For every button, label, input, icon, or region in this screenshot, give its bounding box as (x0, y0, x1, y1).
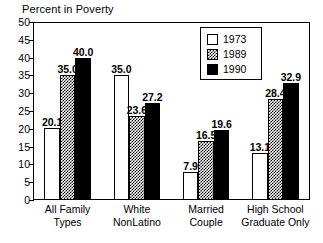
legend-item-1989: 1989 (207, 47, 261, 62)
legend: 1973 1989 1990 (200, 27, 262, 80)
bar-value-label: 27.2 (142, 92, 162, 103)
bar: 7.9 (183, 172, 199, 200)
y-tick-label: 45 (0, 35, 30, 45)
bar: 32.9 (283, 83, 299, 200)
y-tick-mark (29, 200, 34, 201)
legend-label-1973: 1973 (223, 34, 246, 45)
bar: 35.0 (60, 75, 76, 200)
bar: 13.1 (252, 153, 268, 200)
bar: 28.4 (268, 99, 284, 200)
y-tick-label: 20 (0, 124, 30, 134)
legend-item-1973: 1973 (207, 32, 261, 47)
x-group-label: MarriedCouple (172, 203, 241, 228)
bar-value-label: 32.9 (281, 72, 301, 83)
bar-value-label: 19.6 (211, 119, 231, 130)
legend-swatch-1989-icon (207, 49, 218, 60)
bar: 20.1 (44, 128, 60, 200)
bar-value-label: 7.9 (183, 161, 198, 172)
legend-swatch-1973-icon (207, 34, 218, 45)
y-tick-label: 15 (0, 142, 30, 152)
bars-layer: 20.135.040.035.023.627.27.916.519.613.12… (33, 22, 310, 200)
bar-value-label: 35.0 (111, 64, 131, 75)
legend-item-1990: 1990 (207, 62, 261, 77)
x-axis-labels: All FamilyTypesWhiteNonLatinoMarriedCoup… (33, 203, 310, 241)
x-group-label: WhiteNonLatino (102, 203, 171, 228)
y-tick-label: 0 (0, 195, 30, 205)
x-group-label-line: High School (247, 203, 304, 215)
y-tick-label: 25 (0, 106, 30, 116)
x-group-label-line: White (123, 203, 150, 215)
bar-value-label: 40.0 (73, 47, 93, 58)
chart-title: Percent in Poverty (22, 3, 114, 16)
legend-swatch-1990-icon (207, 64, 218, 75)
y-axis: 05101520253035404550 (0, 22, 30, 200)
poverty-bar-chart: Percent in Poverty 05101520253035404550 … (0, 0, 323, 243)
x-group-label-line: Couple (172, 216, 241, 229)
bar: 16.5 (198, 141, 214, 200)
y-tick-label: 40 (0, 53, 30, 63)
bar: 35.0 (114, 75, 130, 200)
bar: 27.2 (145, 103, 161, 200)
x-group-label: High SchoolGraduate Only (241, 203, 310, 228)
x-group-label-line: Graduate Only (241, 216, 310, 229)
legend-label-1990: 1990 (223, 64, 246, 75)
x-group-label-line: NonLatino (102, 216, 171, 229)
x-group-label-line: Married (188, 203, 224, 215)
x-group-label-line: Types (33, 216, 102, 229)
bar: 19.6 (214, 130, 230, 200)
y-tick-label: 50 (0, 17, 30, 27)
y-tick-label: 35 (0, 70, 30, 80)
y-tick-label: 5 (0, 177, 30, 187)
y-tick-label: 10 (0, 159, 30, 169)
x-group-label: All FamilyTypes (33, 203, 102, 228)
bar: 40.0 (75, 58, 91, 200)
x-group-label-line: All Family (45, 203, 91, 215)
legend-label-1989: 1989 (223, 49, 246, 60)
bar: 23.6 (129, 116, 145, 200)
y-tick-label: 30 (0, 88, 30, 98)
